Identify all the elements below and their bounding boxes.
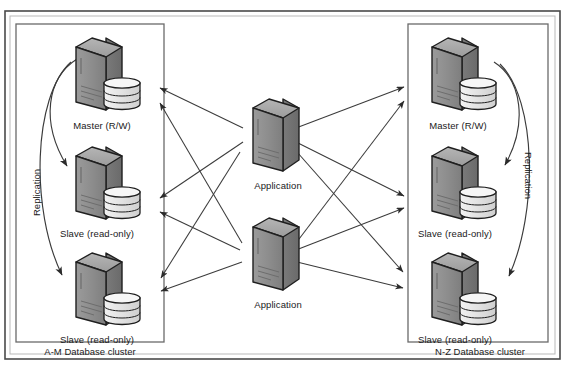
server-left-slave-2[interactable] — [76, 253, 140, 325]
server-left-slave-1[interactable] — [76, 147, 140, 219]
server-right-master[interactable] — [432, 38, 496, 110]
server-right-slave-1[interactable] — [432, 147, 496, 219]
label-app-2: Application — [218, 299, 338, 310]
caption-right-cluster: N-Z Database cluster — [412, 346, 548, 357]
label-left-slave-1: Slave (read-only) — [32, 228, 162, 239]
label-right-replication: Replication — [523, 152, 534, 199]
label-right-slave-1: Slave (read-only) — [390, 228, 520, 239]
label-right-slave-2: Slave (read-only) — [390, 334, 520, 345]
label-right-master: Master (R/W) — [398, 120, 518, 131]
label-left-slave-2: Slave (read-only) — [32, 334, 162, 345]
server-right-slave-2[interactable] — [432, 253, 496, 325]
caption-left-cluster: A-M Database cluster — [22, 346, 158, 357]
server-app-1[interactable] — [253, 99, 299, 171]
server-left-master[interactable] — [76, 38, 140, 110]
label-left-replication: Replication — [31, 169, 42, 216]
server-app-2[interactable] — [253, 218, 299, 290]
label-app-1: Application — [218, 180, 338, 191]
label-left-master: Master (R/W) — [42, 120, 162, 131]
diagram-canvas: Master (R/W) Slave (read-only) Slave (re… — [0, 0, 565, 368]
